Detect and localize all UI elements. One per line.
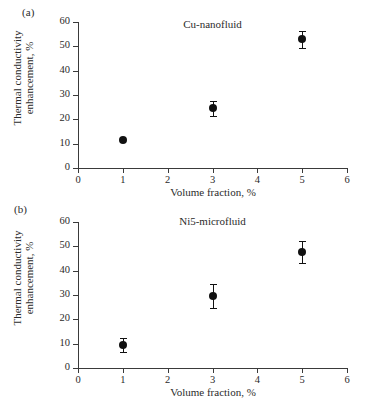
y-axis-tick — [73, 295, 78, 296]
x-axis-tick-label: 4 — [247, 174, 267, 185]
x-axis-tick-label: 1 — [113, 374, 133, 385]
data-marker — [119, 136, 127, 144]
y-axis-tick-label: 20 — [44, 312, 70, 323]
y-axis-tick-label: 30 — [44, 88, 70, 99]
y-axis-tick — [73, 22, 78, 23]
plot-area-a: 01020304050600123456 — [0, 0, 370, 199]
x-axis-tick-label: 6 — [337, 174, 357, 185]
error-bar-cap-lower — [210, 308, 217, 309]
y-axis-tick — [73, 344, 78, 345]
y-axis-title-line2: enhancement, % — [23, 3, 35, 153]
x-axis-tick — [168, 168, 169, 173]
x-axis-tick-label: 3 — [203, 174, 223, 185]
error-bar-cap-upper — [299, 241, 306, 242]
y-axis-tick-label: 60 — [44, 215, 70, 226]
x-axis-tick — [78, 368, 79, 373]
chart-panel-a: (a) Cu-nanofluid 01020304050600123456 Th… — [0, 0, 370, 199]
x-axis-tick — [302, 168, 303, 173]
y-axis-tick-label: 0 — [44, 361, 70, 372]
y-axis-tick — [73, 319, 78, 320]
x-axis-tick-label: 2 — [158, 374, 178, 385]
error-bar-cap-lower — [299, 263, 306, 264]
y-axis-tick — [73, 222, 78, 223]
data-marker — [119, 341, 127, 349]
error-bar-cap-upper — [299, 31, 306, 32]
x-axis-tick-label: 0 — [68, 374, 88, 385]
y-axis-tick-label: 10 — [44, 137, 70, 148]
x-axis-tick-label: 5 — [292, 174, 312, 185]
error-bar-cap-lower — [120, 352, 127, 353]
data-marker — [209, 292, 217, 300]
y-axis-tick-label: 20 — [44, 112, 70, 123]
chart-panel-b: (b) Ni5-microfluid 01020304050600123456 … — [0, 200, 370, 399]
y-axis-tick — [73, 246, 78, 247]
x-axis-tick-label: 5 — [292, 374, 312, 385]
x-axis-tick-label: 2 — [158, 174, 178, 185]
y-axis-tick — [73, 71, 78, 72]
x-axis-tick-label: 3 — [203, 374, 223, 385]
y-axis-title: Thermal conductivity enhancement, % — [11, 203, 35, 353]
y-axis-title-line1: Thermal conductivity — [11, 203, 23, 353]
y-axis-title: Thermal conductivity enhancement, % — [11, 3, 35, 153]
x-axis-title: Volume fraction, % — [78, 386, 348, 398]
x-axis-tick — [257, 168, 258, 173]
x-axis-tick — [213, 168, 214, 173]
y-axis-tick — [73, 46, 78, 47]
x-axis-tick — [347, 368, 348, 373]
data-marker — [298, 248, 306, 256]
error-bar-cap-upper — [120, 338, 127, 339]
x-axis-tick — [347, 168, 348, 173]
y-axis-tick-label: 40 — [44, 264, 70, 275]
x-axis-tick-label: 1 — [113, 174, 133, 185]
x-axis-tick — [78, 168, 79, 173]
y-axis-tick-label: 10 — [44, 337, 70, 348]
y-axis-tick — [73, 119, 78, 120]
error-bar-cap-upper — [210, 101, 217, 102]
y-axis-tick-label: 60 — [44, 15, 70, 26]
x-axis-tick — [123, 368, 124, 373]
y-axis-tick-label: 0 — [44, 161, 70, 172]
data-marker — [209, 104, 217, 112]
y-axis-tick-label: 40 — [44, 64, 70, 75]
x-axis-tick-label: 0 — [68, 174, 88, 185]
error-bar-cap-lower — [299, 48, 306, 49]
y-axis-tick-label: 50 — [44, 239, 70, 250]
x-axis-tick-label: 4 — [247, 374, 267, 385]
plot-area-b: 01020304050600123456 — [0, 200, 370, 399]
x-axis-tick — [213, 368, 214, 373]
y-axis-title-line2: enhancement, % — [23, 203, 35, 353]
x-axis-tick — [257, 368, 258, 373]
y-axis-tick — [73, 95, 78, 96]
error-bar-cap-lower — [210, 116, 217, 117]
y-axis-title-line1: Thermal conductivity — [11, 3, 23, 153]
data-marker — [298, 35, 306, 43]
x-axis-tick — [302, 368, 303, 373]
y-axis-tick-label: 50 — [44, 39, 70, 50]
x-axis-title: Volume fraction, % — [78, 186, 348, 198]
x-axis-tick-label: 6 — [337, 374, 357, 385]
error-bar-cap-upper — [210, 284, 217, 285]
y-axis-tick-label: 30 — [44, 288, 70, 299]
y-axis-tick — [73, 144, 78, 145]
y-axis-line — [78, 22, 79, 169]
y-axis-line — [78, 222, 79, 369]
x-axis-tick — [168, 368, 169, 373]
y-axis-tick — [73, 271, 78, 272]
x-axis-tick — [123, 168, 124, 173]
